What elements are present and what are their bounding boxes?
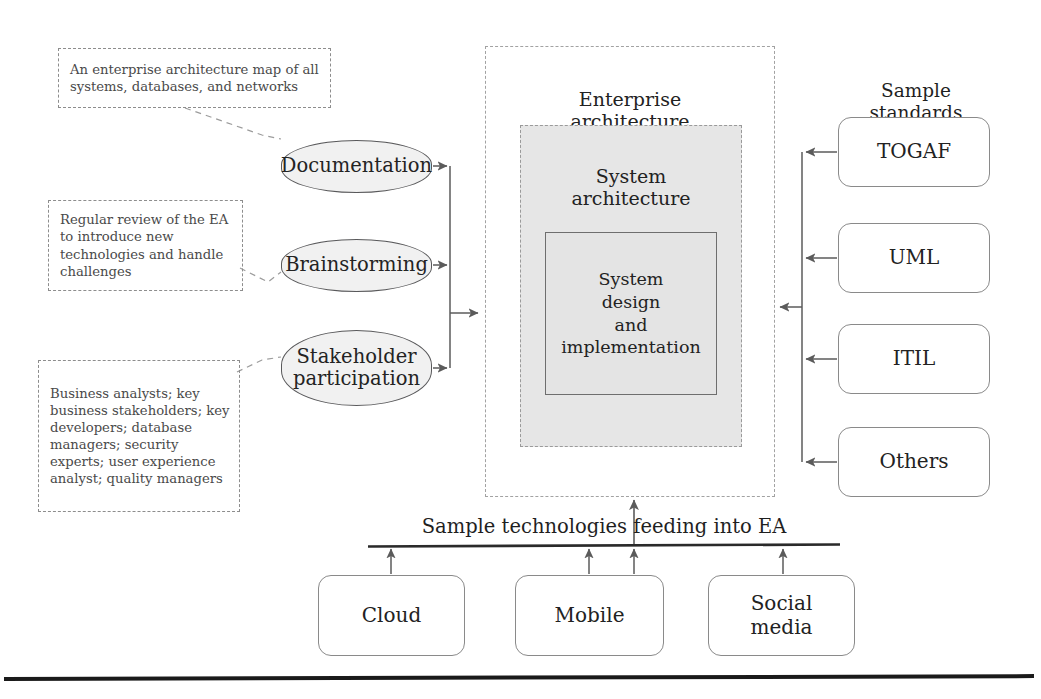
callout-stakeholder-text: Business analysts; key business stakehol… xyxy=(50,385,230,488)
technology-box-cloud[interactable]: Cloud xyxy=(318,575,465,656)
left-activity-connectors xyxy=(433,166,478,368)
system-design-label: System design and implementation xyxy=(561,268,700,359)
activity-documentation-label: Documentation xyxy=(281,155,432,177)
technology-mobile-label: Mobile xyxy=(555,604,625,627)
activity-brainstorming-label: Brainstorming xyxy=(285,254,428,276)
standard-box-uml[interactable]: UML xyxy=(838,223,990,293)
callout-stakeholder-note: Business analysts; key business stakehol… xyxy=(38,360,240,512)
activity-documentation[interactable]: Documentation xyxy=(281,140,432,193)
activity-brainstorming[interactable]: Brainstorming xyxy=(281,239,432,292)
technology-social-media-label: Social media xyxy=(751,592,813,638)
technologies-caption: Sample technologies feeding into EA xyxy=(368,515,840,538)
technology-bus-line xyxy=(368,545,840,547)
activity-stakeholder-participation[interactable]: Stakeholder participation xyxy=(281,330,432,406)
standards-connectors xyxy=(780,152,837,462)
technology-cloud-label: Cloud xyxy=(362,604,421,627)
standard-uml-label: UML xyxy=(889,246,940,269)
callout-documentation-text: An enterprise architecture map of all sy… xyxy=(70,61,321,95)
enterprise-architecture-box[interactable]: Enterprise architecture System architect… xyxy=(485,46,775,497)
standard-togaf-label: TOGAF xyxy=(877,140,951,163)
standard-box-itil[interactable]: ITIL xyxy=(838,324,990,394)
diagram-canvas: An enterprise architecture map of all sy… xyxy=(0,0,1041,699)
system-architecture-box[interactable]: System architecture System design and im… xyxy=(520,125,742,447)
system-design-box[interactable]: System design and implementation xyxy=(545,232,717,395)
system-architecture-title-text: System architecture xyxy=(571,165,690,209)
activity-stakeholder-label: Stakeholder participation xyxy=(293,346,420,390)
callout-brainstorming-note: Regular review of the EA to introduce ne… xyxy=(48,200,243,291)
technology-connectors xyxy=(391,549,783,574)
standard-box-togaf[interactable]: TOGAF xyxy=(838,117,990,187)
technology-box-social-media[interactable]: Social media xyxy=(708,575,855,656)
technology-box-mobile[interactable]: Mobile xyxy=(515,575,664,656)
technologies-caption-text: Sample technologies feeding into EA xyxy=(422,515,787,538)
standard-box-others[interactable]: Others xyxy=(838,427,990,497)
callout-documentation-note: An enterprise architecture map of all sy… xyxy=(58,48,331,108)
enterprise-architecture-title: Enterprise architecture xyxy=(486,66,774,132)
standard-others-label: Others xyxy=(880,450,949,473)
standard-itil-label: ITIL xyxy=(893,347,935,370)
callout-brainstorming-text: Regular review of the EA to introduce ne… xyxy=(60,211,233,280)
system-architecture-title: System architecture xyxy=(521,143,741,209)
